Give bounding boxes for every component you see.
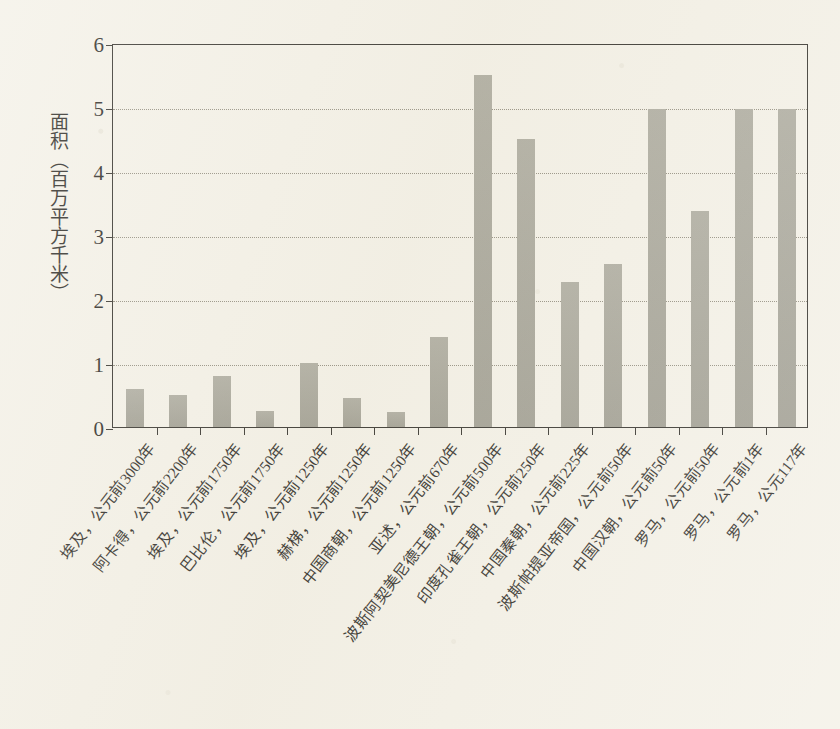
x-axis-tick-mark (374, 427, 375, 435)
y-axis-tick-mark (106, 45, 113, 46)
y-axis-tick-mark (106, 109, 113, 110)
x-axis-tick-mark (766, 427, 767, 435)
bar (691, 211, 709, 427)
x-axis-tick-mark (200, 427, 201, 435)
bar (387, 412, 405, 427)
x-axis-tick-mark (461, 427, 462, 435)
gridline (113, 109, 807, 110)
bar (648, 109, 666, 427)
bar (604, 264, 622, 427)
y-axis-tick-mark (106, 365, 113, 366)
x-axis-tick-mark (287, 427, 288, 435)
bar (213, 376, 231, 427)
y-axis-tick-label: 0 (94, 419, 105, 440)
x-axis-tick-mark (505, 427, 506, 435)
bar (735, 109, 753, 427)
bar (778, 109, 796, 427)
y-axis-tick-label: 2 (94, 291, 105, 312)
x-axis-tick-mark (679, 427, 680, 435)
plot-area: 0123456 (112, 44, 808, 428)
y-axis-tick-mark (106, 301, 113, 302)
bar (430, 337, 448, 427)
x-axis-tick-mark (244, 427, 245, 435)
y-axis-title: 面积（百万平方千米） (34, 112, 68, 302)
y-axis-tick-mark (106, 237, 113, 238)
y-axis-tick-mark (106, 429, 113, 430)
x-axis-tick-mark (418, 427, 419, 435)
x-axis-tick-mark (157, 427, 158, 435)
x-axis-tick-mark (722, 427, 723, 435)
x-axis-tick-mark (592, 427, 593, 435)
bar (343, 398, 361, 427)
x-axis-tick-mark (548, 427, 549, 435)
gridline (113, 173, 807, 174)
bar (517, 139, 535, 427)
bar (300, 363, 318, 427)
y-axis-tick-label: 3 (94, 227, 105, 248)
bar (474, 75, 492, 427)
bar (126, 389, 144, 427)
y-axis-tick-label: 4 (94, 163, 105, 184)
x-axis-tick-mark (331, 427, 332, 435)
bar-chart-figure: 面积（百万平方千米） 0123456 埃及，公元前3000年阿卡得，公元前220… (0, 0, 840, 729)
bar (561, 282, 579, 427)
y-axis-tick-label: 6 (94, 35, 105, 56)
bar (256, 411, 274, 427)
bar (169, 395, 187, 427)
y-axis-tick-label: 5 (94, 99, 105, 120)
x-axis-tick-mark (635, 427, 636, 435)
y-axis-tick-mark (106, 173, 113, 174)
y-axis-tick-label: 1 (94, 355, 105, 376)
